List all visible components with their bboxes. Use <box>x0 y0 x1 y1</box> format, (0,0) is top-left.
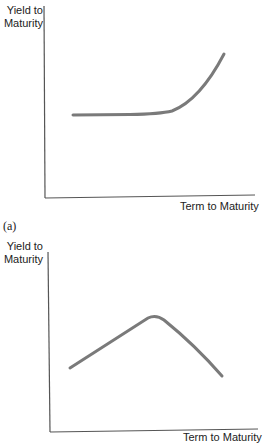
charts-svg <box>0 0 267 446</box>
axes-b <box>48 252 258 432</box>
yield-curve-b <box>70 316 222 376</box>
axes-a <box>44 6 255 198</box>
yield-curve-a <box>73 54 224 115</box>
